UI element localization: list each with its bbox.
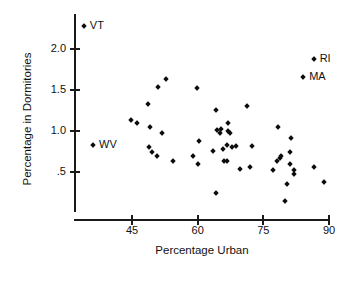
data-point (134, 120, 140, 126)
data-point (224, 158, 230, 164)
data-point (288, 136, 294, 142)
data-point (287, 149, 293, 155)
y-axis-tick (70, 89, 80, 91)
data-point (282, 198, 288, 204)
x-axis-tick-label: 60 (183, 225, 213, 236)
data-point (145, 101, 151, 107)
data-point (154, 153, 160, 159)
data-point (163, 76, 169, 82)
y-axis-tick-label: .5 (57, 166, 66, 177)
y-axis-label: Percentage in Dormitories (21, 24, 33, 214)
y-axis-tick-label: 1.5 (51, 84, 66, 95)
data-point (300, 74, 306, 80)
data-point-label: VT (90, 20, 104, 31)
data-point-label: WV (99, 139, 117, 150)
x-axis-label: Percentage Urban (74, 244, 330, 256)
x-axis-line (74, 219, 330, 221)
data-point (159, 130, 165, 136)
x-axis-tick-label: 45 (117, 225, 147, 236)
data-point (194, 85, 200, 91)
data-point (147, 124, 153, 130)
y-axis-tick (70, 48, 80, 50)
data-point (213, 190, 219, 196)
data-point (225, 120, 231, 126)
data-point (220, 146, 226, 152)
data-point (227, 131, 233, 137)
data-point (288, 161, 294, 167)
data-point (210, 148, 216, 154)
x-axis-tick-label: 75 (248, 225, 278, 236)
data-point (190, 153, 196, 159)
data-point (237, 166, 243, 172)
y-axis-line (74, 14, 76, 212)
data-point (90, 142, 96, 148)
data-point (284, 181, 290, 187)
data-point (321, 179, 327, 185)
data-point-label: RI (320, 53, 331, 64)
data-point (195, 161, 201, 167)
data-point (81, 23, 87, 29)
data-point-label: MA (309, 71, 326, 82)
data-point (155, 84, 161, 90)
data-point (196, 138, 202, 144)
data-point (275, 124, 281, 130)
data-point (291, 172, 297, 178)
data-point (250, 143, 256, 149)
y-axis-tick (70, 171, 80, 173)
y-axis-tick (70, 130, 80, 132)
data-point (214, 107, 220, 113)
data-point (247, 164, 253, 170)
scatter-plot: Percentage in Dormitories Percentage Urb… (0, 0, 355, 282)
y-axis-tick-label: 1.0 (51, 125, 66, 136)
y-axis-tick-label: 2.0 (51, 43, 66, 54)
data-point (244, 104, 250, 110)
data-point (170, 158, 176, 164)
x-axis-tick-label: 90 (314, 225, 344, 236)
data-point (270, 168, 276, 174)
data-point (233, 143, 239, 149)
data-point (311, 56, 317, 62)
data-point (311, 164, 317, 170)
data-point (218, 126, 224, 132)
